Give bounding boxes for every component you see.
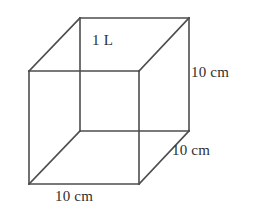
width-dimension-label: 10 cm	[55, 188, 93, 205]
connect-bottom-left-edge	[29, 131, 80, 184]
volume-label: 1 L	[92, 32, 113, 49]
connect-top-left-edge	[29, 18, 80, 71]
height-dimension-label: 10 cm	[191, 64, 229, 81]
connect-top-right-edge	[139, 18, 189, 71]
depth-dimension-label: 10 cm	[172, 142, 210, 159]
cube-volume-figure: 1 L 10 cm 10 cm 10 cm	[0, 0, 256, 216]
cube-wireframe	[0, 0, 256, 216]
